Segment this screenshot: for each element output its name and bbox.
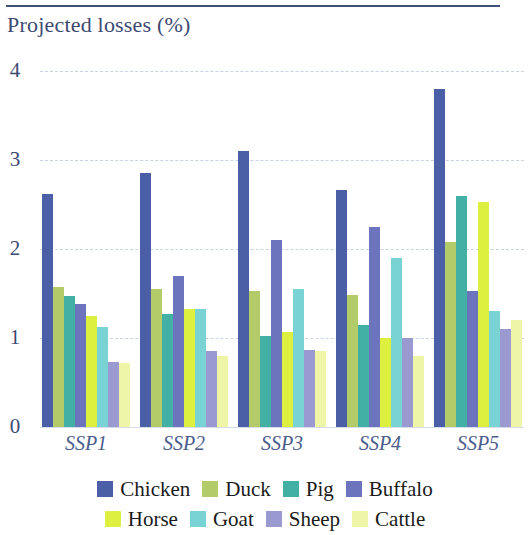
bar-ssp2-buffalo — [173, 276, 184, 427]
bar-ssp3-sheep — [304, 350, 315, 427]
bar-ssp4-horse — [380, 338, 391, 427]
bar-ssp5-chicken — [434, 89, 445, 427]
bar-group-ssp1 — [42, 71, 130, 427]
gridline-0 — [40, 427, 524, 428]
legend-label-chicken: Chicken — [120, 477, 190, 502]
bar-ssp3-chicken — [238, 151, 249, 427]
bar-ssp2-chicken — [140, 173, 151, 427]
bar-ssp4-sheep — [402, 338, 413, 427]
bar-ssp5-horse — [478, 202, 489, 427]
legend-swatch-cattle-icon — [352, 511, 368, 527]
x-tick-label-ssp2: SSP2 — [140, 432, 228, 462]
legend-label-goat: Goat — [213, 507, 254, 532]
bar-ssp1-horse — [86, 316, 97, 427]
legend-item-duck[interactable]: Duck — [202, 477, 271, 502]
legend-swatch-pig-icon — [283, 481, 299, 497]
projected-losses-chart: Projected losses (%) 01234 SSP1SSP2SSP3S… — [0, 0, 530, 535]
legend-item-pig[interactable]: Pig — [283, 477, 334, 502]
bar-ssp1-cattle — [119, 363, 130, 427]
bar-ssp5-goat — [489, 311, 500, 427]
legend-swatch-sheep-icon — [266, 511, 282, 527]
legend-label-pig: Pig — [306, 477, 334, 502]
bar-ssp3-horse — [282, 332, 293, 427]
bar-ssp5-sheep — [500, 329, 511, 427]
y-tick-label-3: 3 — [0, 147, 30, 172]
bar-group-ssp3 — [238, 71, 326, 427]
bar-ssp1-pig — [64, 296, 75, 427]
legend-swatch-goat-icon — [190, 511, 206, 527]
chart-title: Projected losses (%) — [7, 12, 191, 38]
bar-ssp3-pig — [260, 336, 271, 427]
legend-swatch-buffalo-icon — [346, 481, 362, 497]
legend-swatch-chicken-icon — [97, 481, 113, 497]
bar-ssp1-duck — [53, 287, 64, 427]
x-tick-label-ssp5: SSP5 — [434, 432, 522, 462]
legend-swatch-horse-icon — [105, 511, 121, 527]
legend-item-cattle[interactable]: Cattle — [352, 507, 425, 532]
x-tick-label-ssp4: SSP4 — [336, 432, 424, 462]
bar-ssp1-buffalo — [75, 304, 86, 427]
bar-group-ssp4 — [336, 71, 424, 427]
bar-ssp2-goat — [195, 309, 206, 427]
bar-ssp4-duck — [347, 295, 358, 427]
bar-ssp4-goat — [391, 258, 402, 427]
bar-ssp1-goat — [97, 327, 108, 427]
bar-ssp3-cattle — [315, 351, 326, 427]
top-rule-divider — [6, 5, 500, 7]
legend-item-goat[interactable]: Goat — [190, 507, 254, 532]
y-tick-label-1: 1 — [0, 325, 30, 350]
bar-ssp2-cattle — [217, 356, 228, 427]
bar-ssp2-duck — [151, 289, 162, 427]
bar-ssp2-sheep — [206, 351, 217, 427]
legend-swatch-duck-icon — [202, 481, 218, 497]
bar-ssp4-cattle — [413, 356, 424, 427]
legend-label-buffalo: Buffalo — [369, 477, 433, 502]
bar-ssp5-buffalo — [467, 291, 478, 427]
legend-item-chicken[interactable]: Chicken — [97, 477, 190, 502]
bar-ssp5-duck — [445, 242, 456, 427]
chart-legend: ChickenDuckPigBuffaloHorseGoatSheepCattl… — [0, 474, 530, 534]
bar-groups — [40, 71, 524, 427]
bar-ssp2-pig — [162, 314, 173, 427]
plot-area — [40, 71, 524, 427]
y-tick-label-0: 0 — [0, 414, 30, 439]
bar-ssp3-buffalo — [271, 240, 282, 427]
legend-row-1: ChickenDuckPigBuffalo — [0, 474, 530, 504]
y-tick-label-4: 4 — [0, 58, 30, 83]
legend-item-sheep[interactable]: Sheep — [266, 507, 340, 532]
bar-ssp5-pig — [456, 196, 467, 427]
bar-group-ssp5 — [434, 71, 522, 427]
x-tick-label-ssp3: SSP3 — [238, 432, 326, 462]
bar-ssp1-chicken — [42, 194, 53, 427]
bar-ssp4-chicken — [336, 190, 347, 427]
bar-ssp5-cattle — [511, 320, 522, 427]
legend-label-sheep: Sheep — [289, 507, 340, 532]
legend-label-duck: Duck — [225, 477, 271, 502]
legend-item-horse[interactable]: Horse — [105, 507, 178, 532]
bar-ssp2-horse — [184, 309, 195, 427]
legend-label-cattle: Cattle — [375, 507, 425, 532]
bar-ssp1-sheep — [108, 362, 119, 427]
legend-row-2: HorseGoatSheepCattle — [0, 504, 530, 534]
legend-label-horse: Horse — [128, 507, 178, 532]
y-tick-label-2: 2 — [0, 236, 30, 261]
bar-group-ssp2 — [140, 71, 228, 427]
bar-ssp4-pig — [358, 325, 369, 427]
legend-item-buffalo[interactable]: Buffalo — [346, 477, 433, 502]
bar-ssp4-buffalo — [369, 227, 380, 427]
bar-ssp3-goat — [293, 289, 304, 427]
bar-ssp3-duck — [249, 291, 260, 427]
x-axis-labels: SSP1SSP2SSP3SSP4SSP5 — [40, 432, 524, 462]
x-tick-label-ssp1: SSP1 — [42, 432, 130, 462]
